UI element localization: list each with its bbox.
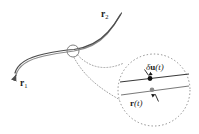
label-r1-subscript: 1 (24, 82, 27, 89)
physics-path-variation-figure: r1 r2 δu(t) r(t) (0, 0, 199, 134)
label-u-argument: (t) (155, 62, 164, 72)
label-r2: r2 (101, 9, 108, 20)
trajectory-strand-varied (15, 13, 122, 73)
callout-connector-upper (78, 55, 125, 68)
trajectory-curve (14, 13, 121, 80)
label-r2-subscript: 2 (105, 13, 108, 20)
callout-connector-lower (74, 58, 122, 102)
figure-canvas: r1 r2 δu(t) r(t) (0, 0, 199, 134)
callout-connector (74, 55, 124, 101)
label-r-argument: (t) (134, 98, 143, 108)
varied-path-point-dot (148, 76, 153, 81)
label-delta-u-of-t: δu(t) (146, 62, 164, 72)
label-r1: r1 (20, 78, 27, 89)
trajectory-strand-actual (16, 15, 120, 75)
actual-path-point-dot (150, 88, 155, 93)
label-r-of-t: r(t) (130, 98, 143, 108)
trajectory-start-arrowhead (14, 75, 16, 80)
